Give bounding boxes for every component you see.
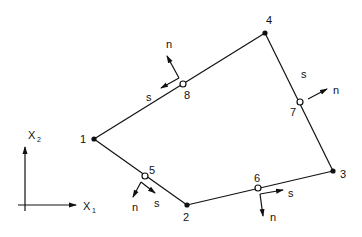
corner-node-4-label: 4 <box>266 14 272 26</box>
x2-axis-subscript: 2 <box>37 136 41 143</box>
corner-node-1-label: 1 <box>80 133 86 145</box>
corner-node-3 <box>330 168 335 173</box>
midside-node-6-group: 6 s n <box>254 172 294 223</box>
n-label-7: n <box>333 84 339 96</box>
midside-node-8 <box>180 81 186 87</box>
s-arrow-8 <box>161 78 179 88</box>
corner-node-2-label: 2 <box>183 211 189 223</box>
x2-axis-label: X <box>28 129 36 141</box>
midside-node-8-label: 8 <box>184 89 190 101</box>
element-diagram: X 2 X 1 1 2 3 4 5 n s 6 s n <box>0 0 362 237</box>
midside-node-7 <box>297 99 303 105</box>
s-label-5: s <box>154 197 160 209</box>
s-label-7: s <box>301 68 307 80</box>
x1-axis-label: X <box>83 200 91 212</box>
n-arrow-5 <box>133 182 141 197</box>
edge-4-1 <box>94 33 265 139</box>
n-arrow-8 <box>167 56 179 78</box>
element-edges <box>94 33 333 205</box>
n-arrow-6 <box>260 194 263 216</box>
n-label-5: n <box>132 201 138 213</box>
corner-node-3-label: 3 <box>340 168 346 180</box>
n-arrow-7 <box>308 89 327 99</box>
midside-node-5-group: 5 n s <box>132 164 160 213</box>
corner-nodes: 1 2 3 4 <box>80 14 346 223</box>
n-label-8: n <box>166 38 172 50</box>
s-label-6: s <box>288 187 294 199</box>
s-arrow-5 <box>141 182 155 193</box>
midside-node-6 <box>255 185 261 191</box>
midside-node-6-label: 6 <box>254 172 260 184</box>
corner-node-1 <box>91 136 96 141</box>
n-label-6: n <box>270 211 276 223</box>
corner-node-4 <box>262 30 267 35</box>
s-arrow-6 <box>260 190 283 194</box>
x1-axis-subscript: 1 <box>92 207 96 214</box>
midside-node-5 <box>142 173 148 179</box>
s-label-8: s <box>146 91 152 103</box>
edge-1-2 <box>94 139 187 205</box>
midside-node-5-label: 5 <box>149 164 155 176</box>
midside-node-7-label: 7 <box>290 106 296 118</box>
corner-node-2 <box>184 202 189 207</box>
